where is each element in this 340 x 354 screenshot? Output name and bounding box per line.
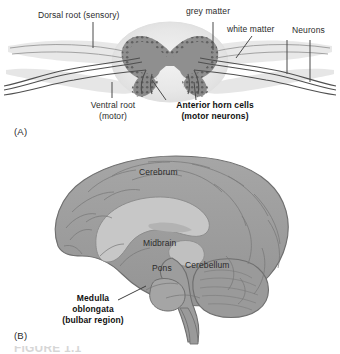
anatomy-figure: Dorsal root (sensory) grey matter white … <box>0 0 340 354</box>
label-ventral-root-line1: Ventral root <box>78 100 148 110</box>
label-dorsal-root: Dorsal root (sensory) <box>38 10 119 20</box>
label-cerebrum: Cerebrum <box>139 167 178 177</box>
label-pons: Pons <box>152 263 172 273</box>
panel-b-id: (B) <box>14 330 27 341</box>
label-ventral-root-line2: (motor) <box>78 111 148 121</box>
label-cerebellum: Cerebellum <box>185 260 229 270</box>
label-medulla-line2: oblongata <box>50 304 136 314</box>
panel-b-brain: Cerebrum Midbrain Pons Cerebellum Medull… <box>0 138 340 354</box>
label-grey-matter: grey matter <box>186 6 230 16</box>
panel-a-id: (A) <box>14 126 27 137</box>
label-anterior-horn-cells-line2: (motor neurons) <box>156 111 274 121</box>
label-anterior-horn-cells-line1: Anterior horn cells <box>156 100 274 110</box>
figure-caption-partial: FIGURE 1.1 <box>14 346 81 354</box>
label-medulla-line1: Medulla <box>50 293 136 303</box>
figure-caption-strip: FIGURE 1.1 <box>0 346 340 354</box>
label-white-matter: white matter <box>227 24 275 34</box>
label-medulla-line3: (bulbar region) <box>40 315 146 325</box>
panel-a-spinal-cord: Dorsal root (sensory) grey matter white … <box>0 0 340 140</box>
label-neurons: Neurons <box>292 25 325 35</box>
label-midbrain: Midbrain <box>143 238 176 248</box>
